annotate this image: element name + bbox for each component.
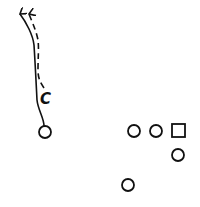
player-left-receiver — [39, 126, 51, 138]
player-center-square — [172, 124, 185, 137]
receiver-label: C — [40, 90, 51, 108]
player-quarterback — [172, 149, 184, 161]
player-back — [122, 179, 134, 191]
player-3 — [150, 125, 162, 137]
play-diagram: C — [0, 0, 200, 207]
solid-route-line — [20, 14, 44, 126]
player-2 — [128, 125, 140, 137]
